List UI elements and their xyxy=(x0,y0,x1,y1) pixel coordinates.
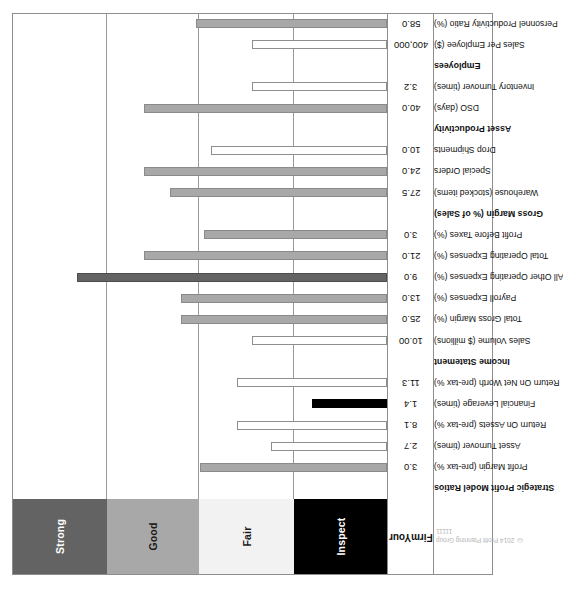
metric-label-text-6: Income Statement xyxy=(434,357,510,367)
value-text-8: 25.0 xyxy=(402,314,421,325)
metric-label-text-21: Sales Per Employee ($) xyxy=(434,40,525,50)
metric-label-text-10: All Other Operating Expenses (%) xyxy=(434,272,563,282)
value-text-3: 8.1 xyxy=(404,420,417,431)
your-firm-header-line2: Firm xyxy=(411,531,433,542)
value-list: 3.02.78.11.411.310.0025.013.09.021.03.02… xyxy=(388,14,434,499)
value-9: 13.0 xyxy=(388,293,434,304)
metric-label-text-22: Personnel Productivity Ratio (%) xyxy=(434,19,558,29)
value-11: 21.0 xyxy=(388,251,434,262)
bar-9 xyxy=(181,294,387,303)
zone-label-good: Good xyxy=(147,522,159,550)
chart-frame: StrongGoodFairInspect Your Firm 3.02.78.… xyxy=(12,13,493,575)
metric-label-text-19: Inventory Turnover (times) xyxy=(434,82,534,92)
your-firm-header: Your Firm xyxy=(388,499,434,574)
value-1: 3.0 xyxy=(388,462,434,473)
value-3: 8.1 xyxy=(388,420,434,431)
your-firm-header-line1: Your xyxy=(389,531,411,542)
metric-label-18: DSO (days) xyxy=(434,103,494,113)
value-2: 2.7 xyxy=(388,441,434,452)
your-firm-value-row: Your Firm 3.02.78.11.411.310.0025.013.09… xyxy=(387,14,434,574)
metric-label-4: Financial Leverage (times) xyxy=(434,399,494,409)
metric-label-10: All Other Operating Expenses (%) xyxy=(434,272,494,282)
copyright-block: © 2014 Profit Planning Group 11111 xyxy=(434,499,494,574)
metric-label-text-0: Strategic Profit Model Ratios xyxy=(434,483,554,493)
value-12: 3.0 xyxy=(388,230,434,241)
metric-label-text-2: Asset Turnover (times) xyxy=(434,441,520,451)
metric-label-text-11: Total Operating Expenses (%) xyxy=(434,251,548,261)
metric-label-text-15: Special Orders xyxy=(434,166,491,176)
metric-label-5: Return On Net Worth (pre-tax %) xyxy=(434,378,494,388)
bar-11 xyxy=(144,252,387,261)
value-7: 10.00 xyxy=(388,336,434,347)
metric-label-text-7: Sales Volume ($ millions) xyxy=(434,336,530,346)
bar-8 xyxy=(181,315,387,324)
bar-2 xyxy=(271,442,387,451)
metric-label-3: Return On Assets (pre-tax %) xyxy=(434,420,494,430)
zone-band-inspect: Inspect xyxy=(294,499,387,574)
metric-label-text-5: Return On Net Worth (pre-tax %) xyxy=(434,378,559,388)
value-text-5: 11.3 xyxy=(402,378,420,389)
metric-label-7: Sales Volume ($ millions) xyxy=(434,336,494,346)
metric-label-6: Income Statement xyxy=(434,357,494,367)
bar-16 xyxy=(211,146,387,155)
bars-plot-area xyxy=(13,14,387,499)
zone-band-good: Good xyxy=(107,499,199,574)
bar-7 xyxy=(252,336,387,345)
metric-label-text-18: DSO (days) xyxy=(434,103,479,113)
zone-label-strong: Strong xyxy=(54,519,66,554)
metric-label-21: Sales Per Employee ($) xyxy=(434,40,494,50)
bar-4 xyxy=(312,399,387,408)
metric-label-text-9: Payroll Expenses (%) xyxy=(434,293,516,303)
bar-18 xyxy=(144,104,387,113)
metric-label-8: Total Gross Margin (%) xyxy=(434,314,494,324)
metric-label-row: © 2014 Profit Planning Group 11111 Strat… xyxy=(433,14,494,574)
value-text-10: 9.0 xyxy=(404,272,417,283)
value-text-18: 40.0 xyxy=(402,103,421,114)
value-text-7: 10.00 xyxy=(399,336,423,347)
metric-label-9: Payroll Expenses (%) xyxy=(434,293,494,303)
metric-label-11: Total Operating Expenses (%) xyxy=(434,251,494,261)
value-text-21: 400,000 xyxy=(394,40,428,51)
bar-1 xyxy=(200,463,387,472)
value-21: 400,000 xyxy=(388,40,434,51)
zone-band-fair: Fair xyxy=(199,499,294,574)
value-22: 58.0 xyxy=(388,19,434,30)
metric-label-text-13: Gross Margin (% of Sales) xyxy=(434,209,543,219)
metric-label-1: Profit Margin (pre-tax %) xyxy=(434,462,494,472)
metric-label-19: Inventory Turnover (times) xyxy=(434,82,494,92)
metric-label-13: Gross Margin (% of Sales) xyxy=(434,209,494,219)
bar-22 xyxy=(196,19,387,28)
metric-label-22: Personnel Productivity Ratio (%) xyxy=(434,19,494,29)
value-8: 25.0 xyxy=(388,314,434,325)
bar-3 xyxy=(237,421,387,430)
value-text-22: 58.0 xyxy=(402,19,421,30)
bar-5 xyxy=(237,378,387,387)
value-text-16: 10.0 xyxy=(402,145,421,156)
metric-label-text-16: Drop Shipments xyxy=(434,145,496,155)
copyright-line1: © 2014 Profit Planning Group xyxy=(436,538,523,545)
metric-label-text-20: Employees xyxy=(434,61,480,71)
metric-label-text-17: Asset Productivity xyxy=(434,124,511,134)
metric-label-2: Asset Turnover (times) xyxy=(434,441,494,451)
metric-label-0: Strategic Profit Model Ratios xyxy=(434,483,494,493)
value-text-19: 3.2 xyxy=(404,82,417,93)
bar-14 xyxy=(170,188,387,197)
copyright-line2: 11111 xyxy=(436,529,452,536)
bar-19 xyxy=(252,82,387,91)
metric-label-text-3: Return On Assets (pre-tax %) xyxy=(434,420,546,430)
value-15: 24.0 xyxy=(388,166,434,177)
metric-label-text-4: Financial Leverage (times) xyxy=(434,399,535,409)
value-4: 1.4 xyxy=(388,399,434,410)
value-text-9: 13.0 xyxy=(402,293,421,304)
metric-label-text-1: Profit Margin (pre-tax %) xyxy=(434,462,528,472)
value-text-15: 24.0 xyxy=(402,166,421,177)
value-14: 27.5 xyxy=(388,188,434,199)
metric-label-text-8: Total Gross Margin (%) xyxy=(434,314,522,324)
metric-label-16: Drop Shipments xyxy=(434,145,494,155)
metric-label-12: Profit Before Taxes (%) xyxy=(434,230,494,240)
metric-label-20: Employees xyxy=(434,61,494,71)
value-10: 9.0 xyxy=(388,272,434,283)
metric-label-text-12: Profit Before Taxes (%) xyxy=(434,230,522,240)
